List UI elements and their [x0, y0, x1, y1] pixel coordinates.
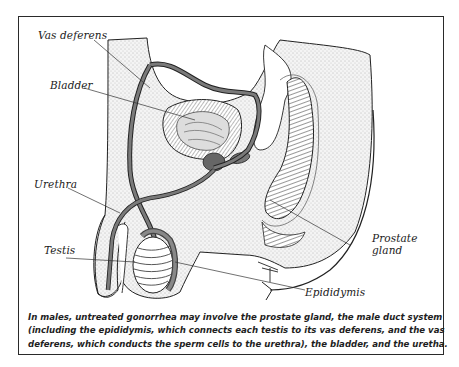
- caption-line-2: (including the epididymis, which connect…: [28, 324, 440, 337]
- label-testis: Testis: [44, 244, 75, 256]
- prostate-organ: [203, 153, 225, 171]
- label-prostate-gland: Prostate gland: [372, 232, 418, 256]
- caption-line-1: In males, untreated gonorrhea may involv…: [28, 311, 440, 324]
- label-urethra: Urethra: [34, 178, 77, 190]
- label-vas-deferens: Vas deferens: [38, 29, 107, 41]
- figure-caption: In males, untreated gonorrhea may involv…: [28, 311, 440, 351]
- label-prostate-line2: gland: [372, 244, 418, 256]
- label-prostate-line1: Prostate: [372, 232, 418, 244]
- label-bladder: Bladder: [50, 79, 93, 91]
- label-epididymis: Epididymis: [305, 286, 365, 298]
- caption-line-3: deferens, which conducts the sperm cells…: [28, 338, 440, 351]
